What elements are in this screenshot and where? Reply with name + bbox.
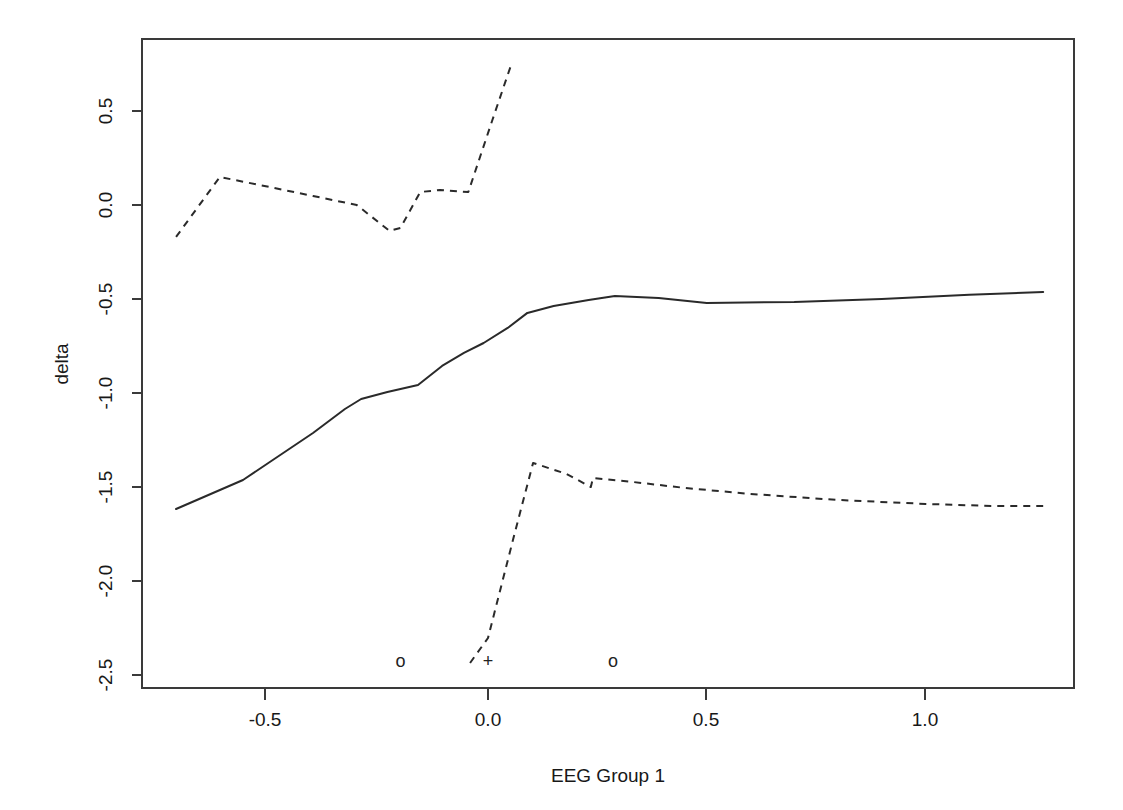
y-tick-label: -0.5 [95, 283, 116, 316]
y-tick-label: -1.5 [95, 471, 116, 504]
x-tick-label: 1.0 [912, 709, 938, 730]
x-tick-label: 0.0 [475, 709, 501, 730]
y-axis-title: delta [51, 343, 72, 385]
y-tick-label: -2.0 [95, 565, 116, 598]
x-tick-label: 0.5 [693, 709, 719, 730]
x-tick-label: -0.5 [249, 709, 282, 730]
y-tick-label: 0.5 [95, 98, 116, 124]
y-tick-label: -2.5 [95, 659, 116, 692]
rug-circle-left: o [395, 651, 405, 671]
figure-canvas: 0.5 0.0 -0.5 -1.0 -1.5 -2.0 -2.5 delta -… [0, 0, 1123, 810]
rug-circle-right: o [608, 651, 618, 671]
y-tick-label: -1.0 [95, 377, 116, 410]
y-tick-label: 0.0 [95, 192, 116, 218]
x-axis-title: EEG Group 1 [551, 765, 665, 786]
plot-svg: 0.5 0.0 -0.5 -1.0 -1.5 -2.0 -2.5 delta -… [0, 0, 1123, 810]
rug-plus-center: + [483, 651, 494, 671]
